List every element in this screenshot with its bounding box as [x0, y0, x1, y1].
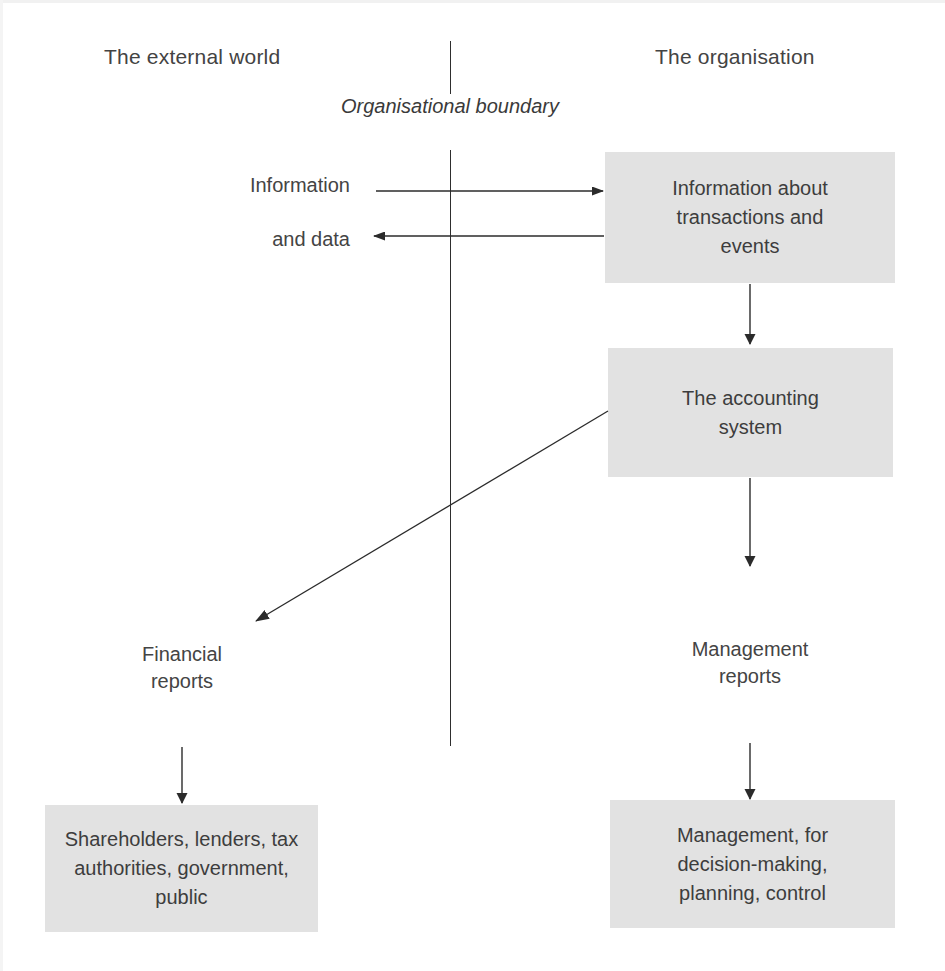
scan-edge-left	[0, 0, 3, 971]
edge-label-financial-reports: Financial reports	[92, 641, 272, 695]
edge-label-information: Information	[200, 172, 350, 199]
node-information-about-transactions-and-events: Information about transactions and event…	[605, 152, 895, 283]
scan-edge-top	[0, 0, 945, 3]
region-label-organisation: The organisation	[655, 45, 815, 69]
region-label-external-world: The external world	[104, 45, 280, 69]
diagram-canvas: The external world The organisation Orga…	[0, 0, 945, 971]
organisational-boundary-line-lower	[450, 150, 451, 746]
edge-label-and-data: and data	[200, 226, 350, 253]
node-management-users: Management, for decision-making, plannin…	[610, 800, 895, 928]
node-external-users: Shareholders, lenders, tax authorities, …	[45, 805, 318, 932]
edge-label-management-reports: Management reports	[660, 636, 840, 690]
organisational-boundary-line-upper	[450, 41, 451, 94]
accounting-to-financial-reports-arrow	[256, 411, 608, 621]
organisational-boundary-label: Organisational boundary	[330, 93, 570, 119]
node-the-accounting-system: The accounting system	[608, 348, 893, 477]
